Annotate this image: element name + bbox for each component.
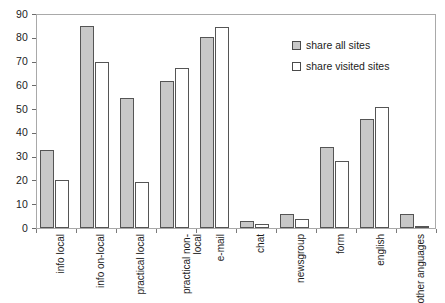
legend-swatch-icon-share-all-sites — [292, 41, 301, 50]
x-axis-tick-label: practical local — [135, 234, 146, 295]
y-axis-tick-label: 0 — [22, 223, 28, 233]
bar — [360, 119, 374, 228]
bar — [135, 182, 149, 228]
bar — [375, 107, 389, 228]
bar — [280, 214, 294, 228]
legend-label-share-all-sites: share all sites — [306, 40, 370, 51]
x-axis-tick-label: newsgroup — [295, 234, 306, 283]
bar — [55, 180, 69, 228]
y-axis-tick-label: 30 — [16, 151, 28, 161]
x-axis-tick-mark — [196, 229, 197, 233]
x-axis-tick-mark — [316, 229, 317, 233]
bar — [240, 221, 254, 228]
chart-legend: share all sites share visited sites — [292, 40, 408, 82]
x-axis-tick-label: e-mail — [215, 234, 226, 261]
y-axis: 9080706050403020100 — [0, 0, 36, 240]
y-axis-tick-label: 60 — [16, 80, 28, 90]
x-axis-tick-label: info local — [55, 234, 66, 273]
x-axis-tick-label: english — [375, 234, 386, 266]
x-axis-tick-mark — [396, 229, 397, 233]
x-axis-tick-mark — [156, 229, 157, 233]
y-axis-tick-label: 10 — [16, 199, 28, 209]
bar — [80, 26, 94, 228]
x-axis-tick-mark — [36, 229, 37, 233]
x-axis-tick-label: info on-local — [95, 234, 106, 288]
bar — [175, 68, 189, 229]
bar — [160, 81, 174, 228]
bar — [320, 147, 334, 228]
x-axis-tick-label: practical non-local — [181, 234, 203, 296]
bar — [200, 37, 214, 228]
bar — [400, 214, 414, 228]
bar — [95, 62, 109, 228]
y-axis-tick-label: 50 — [16, 104, 28, 114]
bar-chart: 9080706050403020100 info localinfo on-lo… — [0, 0, 445, 303]
legend-label-share-visited-sites: share visited sites — [306, 61, 389, 72]
y-axis-tick-label: 70 — [16, 56, 28, 66]
x-axis-tick-mark — [236, 229, 237, 233]
bar — [295, 219, 309, 229]
bar — [40, 150, 54, 228]
bar — [415, 226, 429, 228]
bar — [120, 98, 134, 228]
x-axis-tick-label: other anguages — [415, 234, 426, 303]
bar — [215, 27, 229, 228]
x-axis-tick-mark — [116, 229, 117, 233]
legend-item-share-all-sites: share all sites — [292, 40, 408, 51]
y-axis-tick-label: 80 — [16, 32, 28, 42]
y-axis-tick-label: 20 — [16, 175, 28, 185]
x-axis-tick-mark — [276, 229, 277, 233]
x-axis-labels: info localinfo on-localpractical localpr… — [36, 234, 436, 303]
x-axis-tick-mark — [76, 229, 77, 233]
bar — [255, 224, 269, 228]
y-axis-tick-label: 90 — [16, 9, 28, 19]
x-axis-tick-label: form — [335, 234, 346, 254]
legend-swatch-icon-share-visited-sites — [292, 62, 301, 71]
x-axis-tick-label: chat — [255, 234, 266, 253]
x-axis-tick-mark — [356, 229, 357, 233]
x-axis-tick-mark — [436, 229, 437, 233]
y-axis-tick-label: 40 — [16, 127, 28, 137]
bar — [335, 161, 349, 228]
legend-item-share-visited-sites: share visited sites — [292, 61, 408, 72]
